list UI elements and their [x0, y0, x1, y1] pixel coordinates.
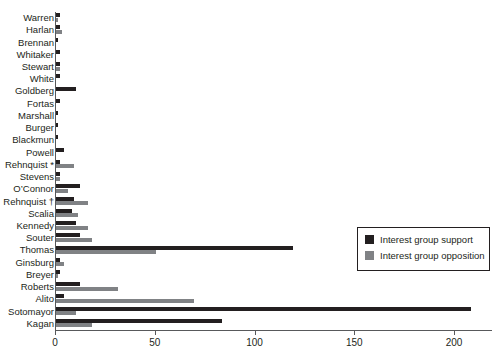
- bar-support: [56, 123, 58, 127]
- bar-opposition: [56, 299, 194, 303]
- category-label-alito: Alito: [36, 294, 54, 304]
- category-label-ginsburg: Ginsburg: [15, 258, 54, 268]
- bar-row: Harlan: [0, 24, 492, 36]
- category-label-blackmun: Blackmun: [12, 135, 54, 145]
- bar-support: [56, 197, 74, 201]
- bar-row: O’Connor: [0, 183, 492, 195]
- bar-row: Burger: [0, 122, 492, 134]
- bar-support: [56, 148, 64, 152]
- bar-opposition: [56, 189, 68, 193]
- bar-opposition: [56, 287, 118, 291]
- category-label-fortas: Fortas: [27, 99, 54, 109]
- dark-square-swatch: [365, 235, 374, 244]
- bar-opposition: [56, 274, 58, 278]
- bar-opposition: [56, 164, 74, 168]
- x-tick-label: 150: [346, 337, 363, 348]
- bar-support: [56, 38, 58, 42]
- bar-row: Sotomayor: [0, 306, 492, 318]
- category-label-scalia: Scalia: [28, 209, 54, 219]
- bar-support: [56, 62, 60, 66]
- legend-item-opposition: Interest group opposition: [365, 250, 489, 261]
- category-label-kagan: Kagan: [27, 319, 54, 329]
- x-tick-label: 0: [52, 337, 58, 348]
- bar-row: Stevens: [0, 171, 492, 183]
- category-label-warren: Warren: [23, 13, 54, 23]
- bar-support: [56, 135, 58, 139]
- bar-row: Stewart: [0, 61, 492, 73]
- category-label-sotomayor: Sotomayor: [8, 307, 54, 317]
- bar-row: Roberts: [0, 281, 492, 293]
- category-label-marshall: Marshall: [18, 111, 54, 121]
- bar-support: [56, 50, 60, 54]
- x-axis-line: [55, 330, 492, 331]
- bar-row: Scalia: [0, 208, 492, 220]
- bar-support: [56, 87, 76, 91]
- category-label-brennan: Brennan: [18, 38, 54, 48]
- bar-row: Rehnquist †: [0, 195, 492, 207]
- bar-row: Rehnquist *: [0, 159, 492, 171]
- bar-support: [56, 111, 58, 115]
- bar-opposition: [56, 177, 60, 181]
- bar-row: Kagan: [0, 318, 492, 330]
- bar-row: Fortas: [0, 98, 492, 110]
- bar-support: [56, 270, 60, 274]
- category-label-goldberg: Goldberg: [15, 86, 54, 96]
- bar-support: [56, 307, 471, 311]
- bar-support: [56, 25, 60, 29]
- bar-support: [56, 13, 60, 17]
- bar-support: [56, 209, 72, 213]
- bar-row: Marshall: [0, 110, 492, 122]
- x-tick-label: 50: [149, 337, 160, 348]
- category-label-harlan: Harlan: [26, 25, 54, 35]
- bar-support: [56, 258, 60, 262]
- bar-opposition: [56, 67, 60, 71]
- bar-row: Warren: [0, 12, 492, 24]
- category-label-whitaker: Whitaker: [17, 50, 54, 60]
- x-tick: [454, 330, 455, 335]
- bar-opposition: [56, 311, 76, 315]
- category-label-rehnquist: Rehnquist †: [3, 197, 54, 207]
- gray-square-swatch: [365, 251, 374, 260]
- legend-label-opposition: Interest group opposition: [380, 250, 485, 261]
- x-tick: [155, 330, 156, 335]
- x-tick-label: 100: [246, 337, 263, 348]
- bar-opposition: [56, 18, 58, 22]
- bar-opposition: [56, 262, 64, 266]
- bar-support: [56, 172, 60, 176]
- bar-support: [56, 282, 80, 286]
- bar-chart: WarrenHarlanBrennanWhitakerStewartWhiteG…: [0, 0, 492, 356]
- bar-opposition: [56, 213, 78, 217]
- bar-row: Powell: [0, 147, 492, 159]
- category-label-rehnquist: Rehnquist *: [5, 160, 54, 170]
- legend-label-support: Interest group support: [380, 234, 473, 245]
- chart-legend: Interest group support Interest group op…: [357, 227, 490, 271]
- bar-opposition: [56, 30, 62, 34]
- category-label-stewart: Stewart: [22, 62, 54, 72]
- bar-support: [56, 99, 60, 103]
- bar-row: Goldberg: [0, 85, 492, 97]
- bar-opposition: [56, 238, 92, 242]
- category-label-thomas: Thomas: [20, 245, 54, 255]
- bar-support: [56, 184, 80, 188]
- x-tick-label: 200: [446, 337, 463, 348]
- category-label-stevens: Stevens: [20, 172, 54, 182]
- category-label-souter: Souter: [26, 233, 54, 243]
- category-label-burger: Burger: [25, 123, 54, 133]
- x-tick: [354, 330, 355, 335]
- legend-item-support: Interest group support: [365, 234, 489, 245]
- x-tick: [55, 330, 56, 335]
- bar-row: White: [0, 73, 492, 85]
- category-label-roberts: Roberts: [21, 282, 54, 292]
- category-label-breyer: Breyer: [26, 270, 54, 280]
- bar-support: [56, 246, 293, 250]
- category-label-kennedy: Kennedy: [16, 221, 54, 231]
- bar-row: Whitaker: [0, 49, 492, 61]
- bar-support: [56, 319, 222, 323]
- bar-row: Blackmun: [0, 134, 492, 146]
- category-label-o-connor: O’Connor: [13, 184, 54, 194]
- bar-opposition: [56, 201, 88, 205]
- bar-opposition: [56, 250, 156, 254]
- bar-support: [56, 221, 76, 225]
- bar-support: [56, 160, 60, 164]
- bar-opposition: [56, 226, 88, 230]
